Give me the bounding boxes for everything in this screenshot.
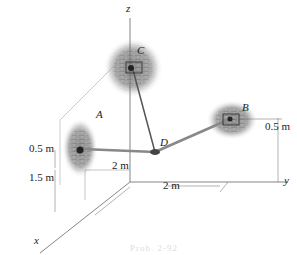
dim-y-offset: 2 m xyxy=(163,179,180,191)
dim-a-lower: 1.5 m xyxy=(29,171,54,183)
dim-b-height: 0.5 m xyxy=(265,120,290,132)
figure-caption: Prob. 2-92 xyxy=(130,243,178,253)
point-d-label: D xyxy=(160,136,168,148)
ring-d xyxy=(150,149,160,155)
anchor-a xyxy=(77,147,84,154)
z-axis-label: z xyxy=(126,2,130,14)
force-vector-diagram: z y x C A D B 0.5 m 1.5 m 0.5 m 2 m 2 m … xyxy=(0,0,297,255)
point-b-label: B xyxy=(242,101,249,113)
x-axis-label: x xyxy=(34,234,39,246)
point-a-label: A xyxy=(96,108,103,120)
dim-a-upper: 0.5 m xyxy=(29,142,54,154)
diagram-graphics xyxy=(0,0,297,255)
y-axis-label: y xyxy=(284,174,289,186)
dim-x-offset: 2 m xyxy=(112,159,129,171)
point-c-label: C xyxy=(137,44,144,56)
